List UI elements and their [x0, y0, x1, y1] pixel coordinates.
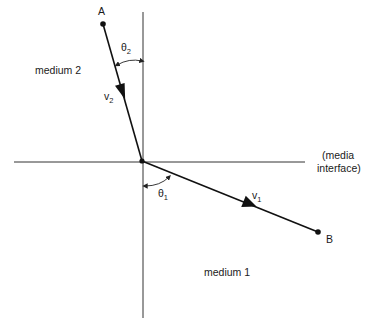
arrow-v2-icon — [115, 83, 129, 101]
point-a-label: A — [98, 5, 105, 17]
v2-label: v2 — [104, 90, 113, 105]
theta2-arc — [117, 60, 142, 65]
medium-1-label: medium 1 — [204, 266, 250, 278]
ray-medium-1 — [142, 161, 318, 232]
interface-label-line2: interface) — [317, 162, 361, 174]
medium-2-label: medium 2 — [35, 64, 81, 76]
theta1-label: θ1 — [158, 187, 168, 202]
point-a — [100, 21, 106, 27]
theta1-arc — [145, 177, 169, 186]
v1-label: v1 — [252, 189, 261, 204]
point-b — [315, 229, 321, 235]
origin-point — [139, 158, 144, 163]
theta2-label: θ2 — [121, 41, 131, 56]
interface-label-line1: (media — [322, 149, 354, 161]
refraction-diagram: A B medium 2 medium 1 (media interface) … — [0, 0, 369, 327]
point-b-label: B — [326, 233, 333, 245]
